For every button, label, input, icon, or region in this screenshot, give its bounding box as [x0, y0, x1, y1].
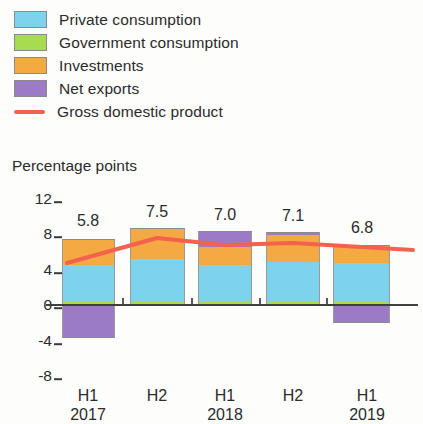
y-tick-label-minus4: -4 — [38, 332, 52, 350]
value-label-h2-2017: 7.5 — [146, 203, 168, 221]
bar-segment-investments-1 — [62, 239, 115, 265]
value-label-h1-2017: 5.8 — [77, 212, 99, 230]
y-tick-label-4: 4 — [43, 261, 52, 279]
x-axis-tick-3 — [326, 298, 328, 304]
x-axis-tick-1 — [191, 298, 193, 304]
y-tick-dash-8 — [54, 236, 62, 238]
y-tick-dash-0 — [54, 307, 62, 309]
x-axis-label-year-0: 2017 — [70, 405, 106, 424]
x-axis-label-h1-2018: H1 2018 — [207, 386, 243, 424]
value-label-h1-2018: 7.0 — [214, 206, 236, 224]
x-axis-tick-2 — [259, 298, 261, 304]
bar-group-h1-2019 — [333, 0, 390, 424]
y-tick-label-minus8: -8 — [38, 367, 52, 385]
x-axis-label-half-4: H1 — [357, 387, 377, 404]
x-axis-label-year-4: 2019 — [349, 405, 385, 424]
bar-segment-net-exports-5 — [333, 306, 390, 323]
bar-segment-private-consumption-5 — [333, 263, 390, 301]
y-tick-label-8: 8 — [43, 225, 52, 243]
zero-axis-line — [46, 304, 418, 306]
bar-segment-net-exports-3 — [198, 231, 252, 247]
bar-segment-net-exports-1 — [62, 306, 115, 338]
y-tick-dash-minus4 — [54, 343, 62, 345]
x-axis-label-h2-2017: H2 — [147, 386, 167, 405]
bar-segment-private-consumption-4 — [266, 262, 320, 301]
bar-segment-private-consumption-2 — [130, 259, 185, 301]
value-label-h2-2018: 7.1 — [282, 207, 304, 225]
value-label-h1-2019: 6.8 — [351, 219, 373, 237]
y-tick-label-12: 12 — [35, 190, 52, 208]
chart-plot-area: 12 8 4 0 -4 -8 — [0, 0, 423, 424]
bar-segment-private-consumption-1 — [62, 265, 115, 301]
x-axis-label-h1-2017: H1 2017 — [70, 386, 106, 424]
bar-segment-investments-2 — [130, 228, 185, 259]
bar-segment-investments-5 — [333, 245, 390, 263]
x-axis-label-year-2: 2018 — [207, 405, 243, 424]
y-tick-dash-4 — [54, 272, 62, 274]
x-axis-label-half-0: H1 — [78, 387, 98, 404]
bar-segment-investments-3 — [198, 247, 252, 265]
bar-segment-investments-4 — [266, 235, 320, 262]
x-axis-label-h1-2019: H1 2019 — [349, 386, 385, 424]
x-axis-label-h2-2018: H2 — [283, 386, 303, 405]
bar-segment-private-consumption-3 — [198, 265, 252, 301]
y-tick-dash-12 — [54, 201, 62, 203]
x-axis-label-half-2: H1 — [215, 387, 235, 404]
x-axis-label-half-3: H2 — [283, 387, 303, 404]
y-tick-dash-minus8 — [54, 378, 62, 380]
x-axis-label-half-1: H2 — [147, 387, 167, 404]
x-axis-tick-0 — [122, 298, 124, 304]
